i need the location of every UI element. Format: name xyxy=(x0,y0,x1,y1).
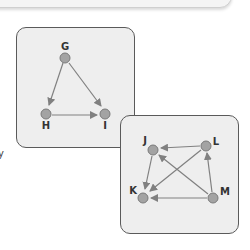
svg-text:K: K xyxy=(129,185,138,196)
svg-text:G: G xyxy=(61,41,69,52)
edge-l-k xyxy=(150,150,201,191)
edge-j-k xyxy=(145,156,152,189)
edge-l-j xyxy=(161,146,200,148)
node-l: L xyxy=(201,136,220,151)
edge-m-j xyxy=(159,155,208,194)
svg-text:H: H xyxy=(42,120,50,131)
svg-text:M: M xyxy=(220,186,230,197)
node-i: I xyxy=(100,109,110,131)
node-j: J xyxy=(142,135,158,155)
edge-m-l xyxy=(207,153,212,192)
svg-text:L: L xyxy=(213,136,220,147)
edge-g-h xyxy=(49,63,63,105)
graph-diagram: G H I J K L M xyxy=(0,0,250,250)
svg-text:J: J xyxy=(142,135,147,146)
node-g: G xyxy=(60,41,70,63)
node-h: H xyxy=(41,109,51,131)
edge-g-i xyxy=(69,63,101,106)
svg-text:I: I xyxy=(103,120,107,131)
graph-1-edges xyxy=(49,63,101,115)
